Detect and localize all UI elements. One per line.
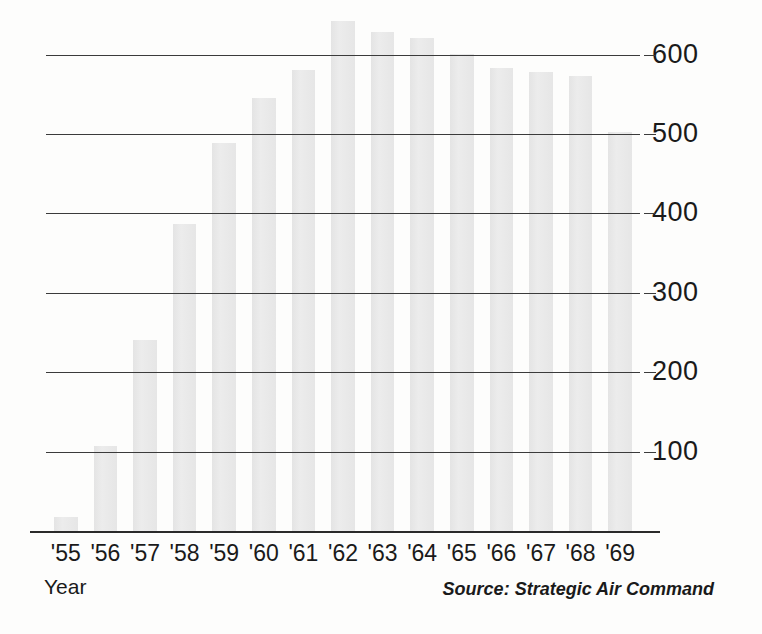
- source-note: Source: Strategic Air Command: [443, 579, 714, 600]
- y-tick-label-500: 500: [652, 120, 699, 147]
- x-tick-label: '57: [125, 539, 165, 568]
- bar-chart: 100200300400500600 '55'56'57'58'59'60'61…: [0, 0, 762, 634]
- y-tick-label-100: 100: [652, 438, 699, 465]
- x-tick-label: '56: [86, 539, 126, 568]
- y-tick-mark-200: [644, 372, 656, 373]
- x-axis-tick-labels: '55'56'57'58'59'60'61'62'63'64'65'66'67'…: [46, 539, 640, 571]
- x-tick-label: '59: [204, 539, 244, 568]
- y-tick-mark-100: [644, 452, 656, 453]
- bar[interactable]: [94, 446, 118, 531]
- bars-group: [46, 14, 640, 532]
- bar[interactable]: [331, 21, 355, 531]
- x-tick-label: '63: [363, 539, 403, 568]
- bar[interactable]: [410, 38, 434, 531]
- bar[interactable]: [490, 68, 514, 531]
- x-tick-label: '55: [46, 539, 86, 568]
- gridline-600: [46, 55, 640, 56]
- gridline-300: [46, 293, 640, 294]
- y-tick-label-200: 200: [652, 358, 699, 385]
- x-axis-title: Year: [44, 575, 86, 599]
- bar[interactable]: [133, 340, 157, 531]
- bar[interactable]: [529, 72, 553, 531]
- y-tick-mark-500: [644, 134, 656, 135]
- bar[interactable]: [54, 517, 78, 531]
- gridline-500: [46, 134, 640, 135]
- x-tick-label: '62: [323, 539, 363, 568]
- y-tick-label-600: 600: [652, 41, 699, 68]
- x-tick-label: '60: [244, 539, 284, 568]
- y-tick-label-300: 300: [652, 279, 699, 306]
- x-tick-label: '61: [284, 539, 324, 568]
- plot-area: [46, 14, 640, 532]
- bar[interactable]: [212, 143, 236, 531]
- x-tick-label: '68: [561, 539, 601, 568]
- gridline-200: [46, 372, 640, 373]
- y-tick-mark-300: [644, 293, 656, 294]
- bar[interactable]: [292, 70, 316, 531]
- bar[interactable]: [608, 132, 632, 531]
- y-tick-mark-400: [644, 213, 656, 214]
- x-tick-label: '69: [600, 539, 640, 568]
- bar[interactable]: [252, 98, 276, 531]
- x-tick-label: '58: [165, 539, 205, 568]
- x-axis-line: [30, 531, 660, 533]
- x-tick-label: '67: [521, 539, 561, 568]
- y-tick-mark-600: [644, 55, 656, 56]
- gridline-100: [46, 452, 640, 453]
- gridline-400: [46, 213, 640, 214]
- x-tick-label: '66: [482, 539, 522, 568]
- bar[interactable]: [173, 224, 197, 531]
- bar[interactable]: [569, 76, 593, 531]
- bar[interactable]: [371, 32, 395, 531]
- x-tick-label: '64: [402, 539, 442, 568]
- x-tick-label: '65: [442, 539, 482, 568]
- y-tick-label-400: 400: [652, 199, 699, 226]
